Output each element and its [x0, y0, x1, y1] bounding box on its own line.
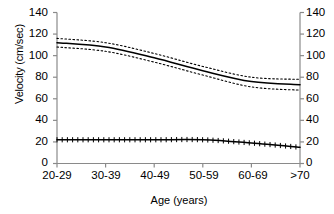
series-line	[57, 43, 300, 85]
series-line	[57, 47, 300, 90]
series-line	[57, 38, 300, 79]
series-group	[57, 38, 300, 149]
chart-container: Velocity (cm/sec) Age (years) 140 120 10…	[0, 0, 334, 214]
plot-area	[0, 0, 334, 214]
